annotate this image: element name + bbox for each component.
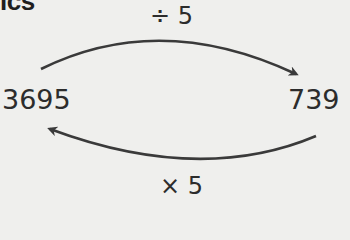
bottom-arrow-multiply bbox=[50, 129, 316, 159]
dividend-number: 3695 bbox=[2, 84, 71, 115]
top-arrow-divide bbox=[41, 41, 296, 74]
quotient-number: 739 bbox=[288, 84, 340, 115]
multiply-by-five-label: × 5 bbox=[160, 172, 203, 200]
